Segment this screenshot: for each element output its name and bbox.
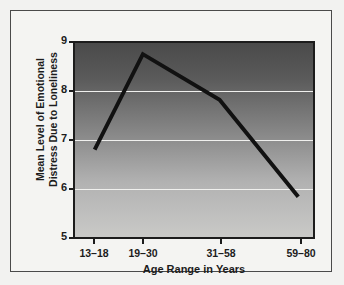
xtick-mark-3: [220, 239, 222, 244]
xtick-label-4: 59–80: [271, 247, 331, 259]
plot-area: [73, 41, 315, 239]
ytick-mark-6: [69, 188, 73, 190]
ytick-mark-9: [69, 41, 73, 43]
y-axis-title-line-1: Mean Level of Emotional: [34, 35, 47, 205]
ytick-mark-7: [69, 139, 73, 141]
x-axis-title: Age Range in Years: [73, 263, 315, 275]
xtick-mark-2: [142, 239, 144, 244]
series-polyline: [95, 54, 299, 197]
figure-frame: 9 8 7 6 5 13–18 19–30 31–58 59–80 Age Ra…: [10, 10, 332, 272]
y-axis-title: Mean Level of Emotional Distress Due to …: [34, 35, 59, 205]
figure-canvas: 9 8 7 6 5 13–18 19–30 31–58 59–80 Age Ra…: [0, 0, 344, 285]
y-axis-title-line-2: Distress Due to Loneliness: [46, 35, 59, 205]
ytick-label-5: 5: [49, 231, 67, 242]
xtick-label-2: 19–30: [113, 247, 173, 259]
xtick-label-3: 31–58: [191, 247, 251, 259]
data-series-line: [75, 43, 313, 237]
ytick-mark-5: [69, 237, 73, 239]
xtick-mark-1: [93, 239, 95, 244]
xtick-mark-4: [300, 239, 302, 244]
ytick-mark-8: [69, 90, 73, 92]
